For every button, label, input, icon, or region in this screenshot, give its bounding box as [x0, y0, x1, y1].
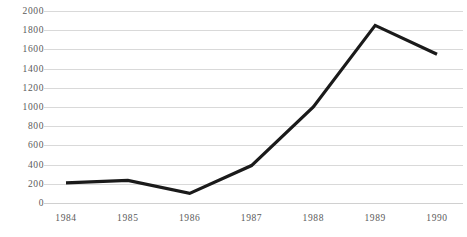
data-series-line [66, 25, 437, 193]
series-svg [0, 0, 467, 237]
line-chart: 2000 1800 1600 1400 1200 1000 800 600 40… [0, 0, 467, 237]
plot-area: 2000 1800 1600 1400 1200 1000 800 600 40… [0, 0, 467, 237]
